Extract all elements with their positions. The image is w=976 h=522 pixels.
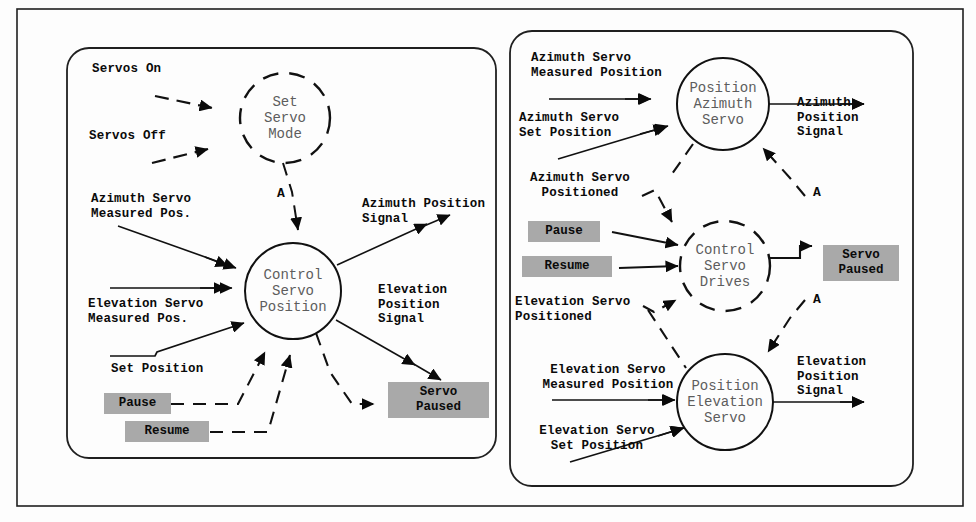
process-control-servo-drives [680, 221, 770, 311]
flow-drives-to-azimuth [763, 148, 805, 196]
flow-mode-to-control [283, 163, 298, 230]
input-label-set-position: Set Position [111, 362, 203, 377]
input-label-azimuth-measured-pos: Azimuth Servo Measured Pos. [91, 192, 191, 221]
process-set-servo-mode [240, 73, 330, 163]
input-label-az-set-position: Azimuth Servo Set Position [519, 111, 619, 140]
flow-pause [171, 352, 265, 404]
input-label-el-positioned: Elevation Servo Positioned [515, 295, 631, 324]
flow-set-position [110, 323, 244, 356]
input-label-el-set-position: Elevation Servo Set Position [522, 424, 672, 453]
process-position-azimuth-servo [677, 58, 769, 150]
output-label-az-position-signal: Azimuth Position Signal [797, 96, 859, 140]
flow-servos-on [155, 96, 212, 108]
flow-azimuth-measured-double [205, 257, 228, 266]
flow-az-positioned [642, 190, 672, 222]
chip-resume-right[interactable]: Resume [522, 256, 612, 277]
flow-elevation-signal-out-double [412, 363, 441, 380]
flow-azimuth-signal-out [337, 224, 427, 265]
chip-servo-paused-right: Servo Paused [823, 245, 899, 281]
input-label-elevation-measured-pos: Elevation Servo Measured Pos. [88, 297, 204, 326]
flow-servo-paused-right [770, 246, 812, 258]
connector-flag-a-left: A [277, 186, 285, 201]
chip-resume-left[interactable]: Resume [125, 421, 209, 442]
diagram-canvas: Set Servo Mode Control Servo Position Se… [0, 0, 976, 522]
output-label-el-position-signal: Elevation Position Signal [797, 355, 866, 399]
chip-pause-right[interactable]: Pause [528, 221, 600, 242]
input-label-el-measured-position: Elevation Servo Measured Position [522, 363, 694, 392]
flow-el-positioned-stub [648, 310, 686, 368]
input-label-servos-on: Servos On [92, 62, 161, 77]
input-label-servos-off: Servos Off [89, 129, 166, 144]
input-label-az-measured-position: Azimuth Servo Measured Position [531, 51, 662, 80]
flow-az-positioned-stub [672, 144, 693, 174]
input-label-az-positioned: Azimuth Servo Positioned [519, 171, 641, 200]
process-control-servo-position [245, 243, 341, 339]
output-label-azimuth-position-signal: Azimuth Position Signal [362, 197, 485, 226]
flow-resume-right [619, 266, 678, 268]
connector-flag-a-top: A [813, 185, 821, 200]
flow-resume [210, 355, 290, 432]
flow-pause-right [612, 232, 678, 245]
flow-elevation-signal-out [336, 320, 415, 365]
output-label-elevation-position-signal: Elevation Position Signal [378, 283, 447, 327]
flow-az-set-position-double [640, 127, 666, 134]
connector-flag-a-bottom: A [813, 292, 821, 307]
flow-servos-off [152, 149, 208, 163]
flow-drives-to-elevation [768, 300, 805, 352]
flow-servo-paused [316, 333, 374, 404]
chip-servo-paused-left: Servo Paused [388, 382, 489, 418]
chip-pause-left[interactable]: Pause [104, 393, 171, 414]
